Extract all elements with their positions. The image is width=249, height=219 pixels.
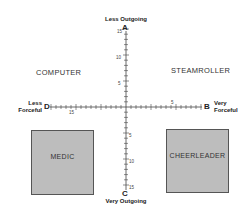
quadrant-medic: MEDIC [50, 153, 74, 160]
quadrant-box-cheerleader: CHEERLEADER [166, 129, 229, 193]
tick-label-bottom-15: 15 [129, 185, 134, 190]
tick-label-top-15: 15 [117, 29, 122, 34]
pole-c-label: C [122, 190, 128, 198]
quadrant-box-medic: MEDIC [31, 130, 94, 195]
tick-label-top-10: 10 [116, 55, 121, 60]
tick-label-left-15: 15 [69, 110, 74, 115]
very-forceful-line2: Forceful [214, 107, 244, 114]
pole-b-label: B [204, 103, 210, 111]
tick-label-right-5: 5 [171, 100, 174, 105]
pole-a-label: A [122, 24, 128, 32]
less-forceful-line2: Forceful [14, 107, 42, 114]
quadrant-computer: COMPUTER [36, 68, 81, 77]
pole-d-label: D [44, 103, 50, 111]
less-forceful-label: Less Forceful [14, 100, 42, 114]
very-outgoing-label: Very Outgoing [100, 198, 152, 205]
very-forceful-label: Very Forceful [214, 100, 244, 114]
tick-label-bottom-10: 10 [129, 159, 134, 164]
less-outgoing-label: Less Outgoing [100, 16, 152, 23]
quadrant-cheerleader: CHEERLEADER [170, 152, 226, 159]
tick-label-bottom-5: 5 [129, 133, 132, 138]
tick-label-top-5: 5 [118, 81, 121, 86]
very-forceful-line1: Very [214, 100, 244, 107]
less-forceful-line1: Less [14, 100, 42, 107]
quadrant-steamroller: STEAMROLLER [171, 66, 230, 75]
